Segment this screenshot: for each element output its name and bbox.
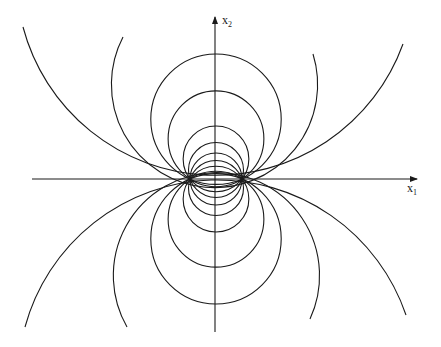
y-axis-label-subscript: 2 — [228, 20, 232, 29]
field-circle — [188, 142, 243, 197]
field-circle — [151, 54, 281, 184]
bipolar-circles-diagram — [0, 0, 441, 347]
x-axis-label-subscript: 1 — [413, 188, 417, 197]
y-axis-label: x2 — [222, 14, 232, 29]
x-axis-label: x1 — [407, 182, 417, 197]
field-circle — [168, 171, 264, 267]
field-circle — [183, 166, 249, 232]
field-circle — [151, 174, 281, 304]
